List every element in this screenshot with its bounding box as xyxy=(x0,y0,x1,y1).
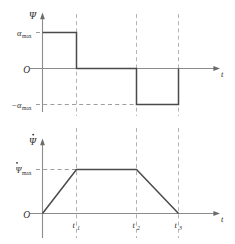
x-axis-arrow-bottom xyxy=(213,211,220,216)
angular-velocity-plot: Ψ t O Ψ max t 1 t 2 t xyxy=(16,128,224,238)
figure-canvas: Ψ t O α max −α max xyxy=(0,0,235,244)
x-tick-label-t2-subscript: 2 xyxy=(137,225,140,231)
level-label-neg-alpha-max-group: −α max xyxy=(11,100,32,111)
x-axis-arrow-top xyxy=(213,66,220,71)
level-label-neg-alpha-max-subscript: max xyxy=(22,105,32,111)
x-tick-label-t2: t xyxy=(133,220,136,230)
angular-acceleration-plot: Ψ t O α max −α max xyxy=(11,10,224,116)
x-tick-label-t1-subscript: 1 xyxy=(77,225,80,231)
origin-label-top: O xyxy=(23,65,30,75)
x-tick-label-t3-subscript: 3 xyxy=(178,225,182,231)
level-label-alpha-max-subscript: max xyxy=(22,33,32,39)
velocity-trapezoid-curve xyxy=(43,170,179,214)
level-label-psidot-max-group: Ψ max xyxy=(16,162,32,176)
y-axis-label-bottom-group: Ψ xyxy=(29,134,37,147)
origin-label-bottom: O xyxy=(23,210,30,220)
derivative-dot-level-label xyxy=(16,162,18,164)
y-axis-label-top: Ψ xyxy=(29,10,37,21)
derivative-dot-y-axis-bottom xyxy=(32,134,34,136)
x-tick-label-t3: t xyxy=(175,220,178,230)
level-label-psidot-max-subscript: max xyxy=(22,170,32,176)
figure-root: Ψ t O α max −α max xyxy=(0,0,235,244)
x-axis-label-top: t xyxy=(221,69,224,79)
y-axis-label-top-group: Ψ xyxy=(29,10,37,21)
x-axis-label-bottom: t xyxy=(221,214,224,224)
y-axis-label-bottom: Ψ xyxy=(29,136,37,147)
level-label-neg-alpha-max: −α xyxy=(11,100,22,110)
level-label-alpha-max-group: α max xyxy=(17,28,32,39)
x-tick-label-t1: t xyxy=(73,220,76,230)
y-axis-arrow-bottom xyxy=(40,139,45,146)
y-axis-arrow-top xyxy=(40,13,45,20)
